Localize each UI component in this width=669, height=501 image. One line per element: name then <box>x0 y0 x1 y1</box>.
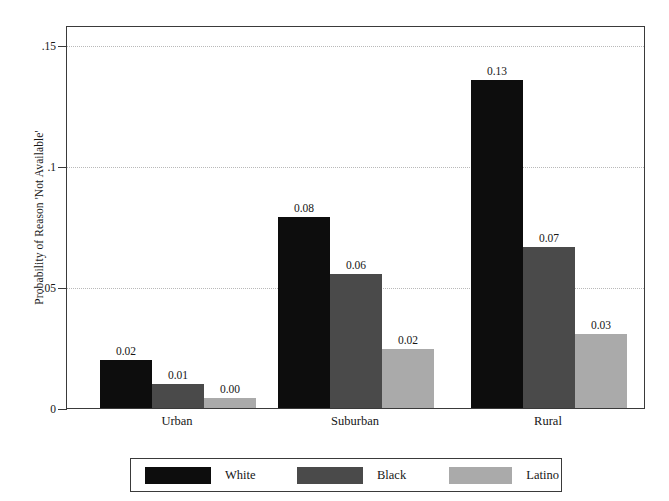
bar-value-rural-latino: 0.03 <box>591 319 611 331</box>
bar-suburban-white: 0.08 <box>278 217 330 408</box>
legend-item-black[interactable]: Black <box>283 459 435 491</box>
bar-value-urban-latino: 0.00 <box>220 383 240 395</box>
y-tick-label-015: .15 <box>8 40 56 52</box>
legend-swatch-white-icon <box>145 467 211 484</box>
bar-value-suburban-black: 0.06 <box>346 259 366 271</box>
legend-swatch-black-icon <box>297 467 363 484</box>
plot-inner: 0.02 0.01 0.00 0.08 0.06 0.02 0.13 <box>67 27 644 408</box>
bar-urban-black: 0.01 <box>152 384 204 408</box>
legend-label-latino: Latino <box>526 468 559 483</box>
bar-value-suburban-latino: 0.02 <box>398 334 418 346</box>
y-tick-label-000: 0 <box>8 403 56 415</box>
legend-label-white: White <box>225 468 256 483</box>
bar-value-urban-black: 0.01 <box>168 369 188 381</box>
y-tick-label-005: .05 <box>8 282 56 294</box>
legend-item-latino[interactable]: Latino <box>435 459 559 491</box>
bar-value-rural-white: 0.13 <box>487 65 507 77</box>
bar-rural-white: 0.13 <box>471 80 523 408</box>
legend-label-black: Black <box>377 468 406 483</box>
y-tick-mark-000 <box>58 409 67 410</box>
bar-suburban-latino: 0.02 <box>382 349 434 408</box>
x-axis-label-rural: Rural <box>470 414 626 429</box>
gridline-010 <box>67 167 644 168</box>
bar-suburban-black: 0.06 <box>330 274 382 408</box>
bar-value-rural-black: 0.07 <box>539 232 559 244</box>
legend-swatch-latino-icon <box>449 467 512 484</box>
y-axis-ticks: .15 .1 .05 0 <box>0 0 56 501</box>
bar-rural-latino: 0.03 <box>575 334 627 408</box>
bar-chart-figure: Probability of Reason 'Not Available' .1… <box>0 0 669 501</box>
plot-area: 0.02 0.01 0.00 0.08 0.06 0.02 0.13 <box>66 26 645 409</box>
gridline-015 <box>67 46 644 47</box>
bar-value-suburban-white: 0.08 <box>294 202 314 214</box>
x-axis-label-urban: Urban <box>99 414 255 429</box>
bar-urban-white: 0.02 <box>100 360 152 408</box>
bar-urban-latino: 0.00 <box>204 398 256 408</box>
y-tick-label-010: .1 <box>8 161 56 173</box>
chart-legend: White Black Latino <box>130 458 562 492</box>
legend-item-white[interactable]: White <box>131 459 283 491</box>
x-axis-label-suburban: Suburban <box>277 414 433 429</box>
bar-rural-black: 0.07 <box>523 247 575 408</box>
bar-value-urban-white: 0.02 <box>116 345 136 357</box>
